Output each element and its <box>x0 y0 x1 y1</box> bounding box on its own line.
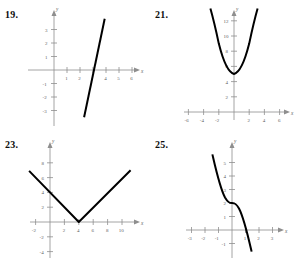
x-tick-label: -6 <box>185 118 190 123</box>
problem-25: 25. x y -3 -2 -1 1 2 3 <box>150 130 300 262</box>
y-axis-label: y <box>233 138 237 144</box>
y-tick-label: 2 <box>45 41 48 46</box>
x-tick-label: 10 <box>119 228 125 233</box>
y-axis-label: y <box>235 6 239 12</box>
x-tick-label: 8 <box>106 228 109 233</box>
problem-23: 23. x y -2 2 4 6 8 10 <box>0 130 150 262</box>
y-tick-label: 12 <box>224 19 230 24</box>
y-tick-label: 3 <box>45 28 48 33</box>
graph-25: x y -3 -2 -1 1 2 3 1 2 3 4 5 <box>178 132 298 262</box>
x-tick-label: 6 <box>130 76 133 81</box>
plotted-line <box>84 19 105 118</box>
y-tick-label: -1 <box>43 82 48 87</box>
x-tick-label: -3 <box>188 236 193 241</box>
x-tick-label: -4 <box>200 118 205 123</box>
x-tick-label: 2 <box>257 236 260 241</box>
x-tick-label: 6 <box>92 228 95 233</box>
y-tick-label: 2 <box>42 205 45 210</box>
x-tick-label: -2 <box>32 228 37 233</box>
x-tick-label: 1 <box>65 76 68 81</box>
x-tick-label: 4 <box>263 118 266 123</box>
y-axis-label: y <box>51 138 55 144</box>
y-tick-label: -2 <box>40 235 45 240</box>
y-tick-label: 2 <box>226 95 229 100</box>
y-tick-label: 8 <box>226 49 229 54</box>
x-tick-label: 2 <box>63 228 66 233</box>
problem-number-23: 23. <box>5 139 18 150</box>
x-axis-label: x <box>290 110 294 116</box>
y-tick-label: 4 <box>224 174 227 179</box>
problem-number-19: 19. <box>5 9 18 20</box>
y-tick-label: 6 <box>42 176 45 181</box>
x-tick-label: 4 <box>77 228 80 233</box>
x-tick-label: 4 <box>104 76 107 81</box>
y-tick-label: 8 <box>42 161 45 166</box>
graph-19: x y 1 2 4 5 6 1 2 3 -1 -2 -3 <box>22 2 148 130</box>
graph-23: x y -2 2 4 6 8 10 2 4 6 8 -2 <box>22 132 148 262</box>
x-tick-label: 6 <box>278 118 281 123</box>
x-tick-label: -2 <box>215 118 220 123</box>
x-tick-label: -2 <box>201 236 206 241</box>
plotted-absolute-value <box>29 170 131 222</box>
graph-21: x y -6 -4 -2 2 4 6 2 4 6 8 1 <box>178 2 298 130</box>
x-tick-label: 3 <box>271 236 274 241</box>
x-axis-arrow-icon <box>134 220 140 225</box>
x-axis-label: x <box>140 68 144 74</box>
x-axis-arrow-icon <box>284 110 290 115</box>
exercise-figures-page: 19. x y 1 2 4 5 6 <box>0 0 300 264</box>
y-tick-label: 1 <box>224 215 227 220</box>
x-axis-arrow-icon <box>278 228 284 233</box>
x-tick-label: -1 <box>215 236 220 241</box>
problem-19: 19. x y 1 2 4 5 6 <box>0 0 150 132</box>
y-tick-label: 5 <box>224 161 227 166</box>
x-axis-label: x <box>284 228 288 234</box>
x-axis-arrow-icon <box>134 68 140 73</box>
y-tick-label: 10 <box>224 34 230 39</box>
x-tick-label: 2 <box>78 76 81 81</box>
problem-21: 21. x y -6 -4 -2 2 4 6 <box>150 0 300 132</box>
y-tick-label: 3 <box>224 188 227 193</box>
y-tick-label: -3 <box>43 109 48 114</box>
x-tick-label: 5 <box>117 76 120 81</box>
y-tick-label: 4 <box>42 190 45 195</box>
y-tick-label: -1 <box>222 242 227 247</box>
x-axis-label: x <box>140 220 144 226</box>
problem-number-25: 25. <box>155 139 168 150</box>
y-tick-label: 2 <box>224 201 227 206</box>
x-tick-label: 1 <box>244 236 247 241</box>
problem-number-21: 21. <box>155 9 168 20</box>
y-axis-label: y <box>55 6 59 12</box>
y-tick-label: 4 <box>226 80 229 85</box>
y-tick-label: -2 <box>43 95 48 100</box>
y-tick-label: 1 <box>45 55 48 60</box>
y-tick-label: -4 <box>40 250 45 255</box>
x-tick-label: 2 <box>248 118 251 123</box>
